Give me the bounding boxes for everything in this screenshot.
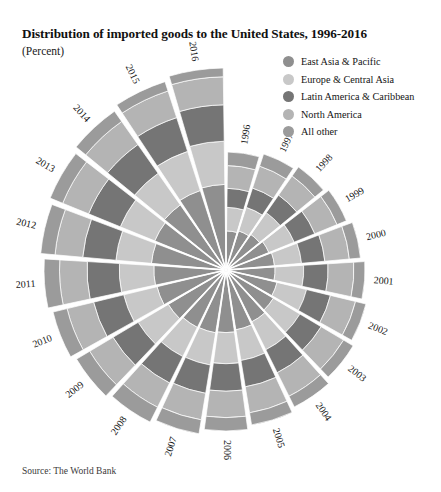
year-label: 2001 — [373, 274, 394, 286]
legend-swatch-icon — [283, 74, 294, 85]
chart-segment — [302, 264, 328, 292]
legend-swatch-icon — [283, 126, 294, 137]
source-note: Source: The World Bank — [22, 466, 116, 476]
year-label: 2015 — [124, 63, 143, 86]
year-label: 2005 — [271, 427, 287, 449]
chart-segment — [213, 332, 238, 364]
year-label: 2014 — [71, 102, 93, 124]
year-label: 2011 — [15, 278, 35, 290]
year-label: 1999 — [343, 185, 366, 205]
legend-item[interactable]: North America — [283, 109, 414, 120]
chart-segment — [206, 390, 246, 418]
chart-legend: East Asia & PacificEurope & Central Asia… — [283, 56, 414, 137]
year-label: 1996 — [238, 124, 252, 145]
chart-page: Distribution of imported goods to the Un… — [0, 0, 441, 492]
year-label: 2010 — [31, 332, 54, 350]
legend-swatch-icon — [283, 91, 294, 102]
legend-swatch-icon — [283, 56, 294, 67]
chart-segment — [59, 260, 90, 305]
chart-segment — [87, 262, 122, 299]
year-label: 2004 — [314, 400, 334, 423]
legend-item[interactable]: All other — [283, 126, 414, 137]
chart-segment — [210, 363, 243, 391]
chart-segment — [326, 262, 354, 296]
year-label: 2012 — [15, 216, 37, 231]
year-label: 2003 — [346, 363, 368, 384]
year-label: 2002 — [367, 320, 390, 338]
legend-item[interactable]: Latin America & Caribbean — [283, 91, 414, 102]
year-label: 2007 — [162, 435, 178, 457]
legend-item-label: Europe & Central Asia — [301, 74, 394, 85]
legend-item-label: Latin America & Caribbean — [301, 91, 414, 102]
year-label: 2006 — [222, 440, 233, 460]
year-label: 1998 — [313, 152, 335, 174]
year-label: 2013 — [34, 155, 57, 175]
chart-segment — [204, 416, 248, 431]
legend-swatch-icon — [283, 109, 294, 120]
year-label: 2000 — [365, 227, 387, 242]
year-label: 2009 — [63, 379, 85, 400]
year-label: 2008 — [108, 414, 128, 437]
legend-item[interactable]: Europe & Central Asia — [283, 74, 414, 85]
legend-item-label: East Asia & Pacific — [301, 56, 381, 67]
year-label: 2016 — [187, 41, 201, 62]
legend-item-label: North America — [301, 109, 362, 120]
legend-item-label: All other — [301, 126, 338, 137]
legend-item[interactable]: East Asia & Pacific — [283, 56, 414, 67]
